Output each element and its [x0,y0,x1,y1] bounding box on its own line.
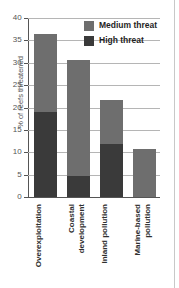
x-axis-line [28,197,160,198]
bar-segment-medium-threat[interactable] [133,149,156,197]
x-category-label-line: Marine-based [133,201,143,256]
y-tick-label-0: 0 [2,193,22,201]
legend-swatch-high-threat [84,36,94,46]
y-tick-label-15: 15 [2,126,22,134]
y-tick-mark-0 [24,197,28,198]
y-tick-label-30: 30 [2,59,22,67]
x-category-label-line: development [77,201,87,253]
x-category-label: Marine-basedpollution [133,201,156,285]
x-category-label: Overexploitation [34,201,57,285]
y-tick-label-20: 20 [2,104,22,112]
legend-label-medium-threat: Medium threat [99,21,157,30]
legend-label-high-threat: High threat [99,36,144,45]
chart-figure: % of reefs threatened 0510152025303540 O… [0,0,179,288]
bar-segment-medium-threat[interactable] [34,34,57,113]
y-tick-label-25: 25 [2,81,22,89]
y-tick-label-35: 35 [2,36,22,44]
legend-swatch-medium-threat [84,21,94,31]
chart-legend: Medium threat High threat [84,19,176,49]
x-category-label: Coastaldevelopment [67,201,90,285]
x-category-label: Inland pollution [100,201,123,285]
y-tick-label-40: 40 [2,14,22,22]
legend-item-medium-threat[interactable]: Medium threat [84,19,176,32]
y-tick-label-10: 10 [2,148,22,156]
bar-segment-medium-threat[interactable] [100,100,123,144]
bar-segment-high-threat[interactable] [67,176,90,197]
bar-segment-medium-threat[interactable] [67,60,90,176]
bar-segment-high-threat[interactable] [100,144,123,197]
x-category-label-line: Overexploitation [34,201,44,267]
bar-segment-high-threat[interactable] [34,112,57,197]
x-category-label-line: Inland pollution [100,201,110,264]
legend-item-high-threat[interactable]: High threat [84,34,176,47]
x-category-label-line: pollution [143,201,153,256]
y-tick-label-5: 5 [2,171,22,179]
x-category-label-line: Coastal [67,201,77,253]
bar-group[interactable] [34,18,57,197]
